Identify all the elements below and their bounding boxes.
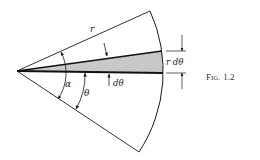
- dtheta-upper-arrow: [104, 43, 107, 56]
- radius-label: r: [90, 24, 95, 34]
- theta-label: θ: [84, 88, 90, 98]
- strip-width-label: r dθ: [166, 57, 183, 67]
- figure-caption: FIG.1.2: [206, 72, 234, 82]
- caption-number: 1.2: [223, 72, 234, 82]
- sector-diagram: α θ r dθ r dθ FIG.1.2: [0, 0, 260, 160]
- alpha-angle-arc: [58, 52, 66, 99]
- dtheta-label: dθ: [113, 78, 124, 88]
- alpha-label: α: [65, 79, 71, 89]
- caption-small-caps: IG.: [211, 74, 220, 82]
- sector-arc: [139, 11, 163, 152]
